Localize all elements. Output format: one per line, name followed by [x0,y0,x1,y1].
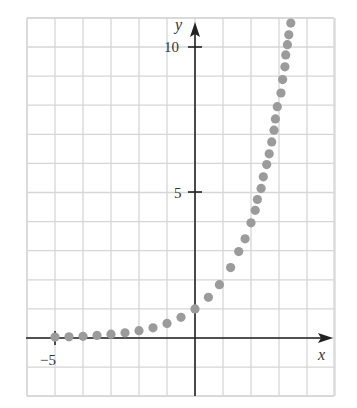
data-point [241,234,250,243]
data-point [190,304,199,313]
data-point [78,332,87,341]
data-point [257,184,266,193]
data-point [106,330,115,339]
y-axis-label: y [173,16,183,34]
data-point [176,313,185,322]
data-point [273,102,282,111]
exponential-scatter-chart: y x 10 5 −5 [0,0,357,408]
data-point [269,126,278,135]
data-point [276,88,285,97]
data-point [284,30,293,39]
data-point [271,114,280,123]
data-point [267,137,276,146]
data-point [265,149,274,158]
data-point [64,332,73,341]
data-point [283,40,292,49]
grid-lines [27,18,335,396]
data-point [234,247,243,256]
data-point [286,19,295,28]
data-point [246,218,255,227]
data-point [120,328,129,337]
data-point [278,75,287,84]
data-point [280,62,289,71]
data-points [50,19,295,342]
x-axis-label: x [317,346,325,363]
data-point [162,319,171,328]
data-point [259,172,268,181]
y-tick-label-5: 5 [174,185,182,201]
data-point [148,323,157,332]
data-point [226,263,235,272]
data-point [281,50,290,59]
data-point [204,293,213,302]
data-point [134,326,143,335]
data-point [262,160,271,169]
data-point [253,195,262,204]
data-point [215,280,224,289]
x-tick-label-neg5: −5 [40,352,56,368]
data-point [50,333,59,342]
y-tick-label-10: 10 [164,39,179,55]
data-point [92,331,101,340]
data-point [251,206,260,215]
